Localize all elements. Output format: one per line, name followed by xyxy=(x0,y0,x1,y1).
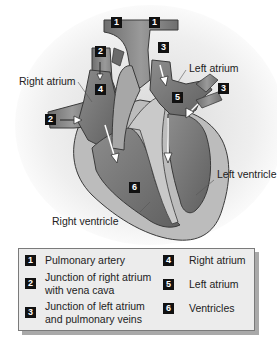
label-right-atrium: Right atrium xyxy=(19,76,76,87)
marker-6: 6 xyxy=(129,182,140,193)
legend-item-2: 2 Junction of right atrium with vena cav… xyxy=(25,271,151,296)
marker-3-right: 3 xyxy=(218,83,229,94)
marker-5: 5 xyxy=(172,92,183,103)
heart-diagram: 1 1 2 2 3 3 4 5 6 Right atrium Left atri… xyxy=(0,0,277,337)
legend-text: Pulmonary artery xyxy=(45,254,125,267)
legend-badge: 2 xyxy=(25,278,36,289)
legend-text: Junction of right atrium with vena cava xyxy=(45,271,151,296)
legend-box: 1 Pulmonary artery 2 Junction of right a… xyxy=(18,248,255,331)
marker-1-right: 1 xyxy=(149,17,160,28)
legend-badge: 1 xyxy=(25,255,36,266)
legend-item-3: 3 Junction of left atrium and pulmonary … xyxy=(25,300,145,325)
legend-item-5: 5 Left atrium xyxy=(163,278,239,291)
marker-2-top: 2 xyxy=(95,46,106,57)
marker-3-top: 3 xyxy=(158,42,169,53)
label-left-atrium: Left atrium xyxy=(189,63,239,74)
legend-item-6: 6 Ventricles xyxy=(163,302,235,315)
label-right-ventricle: Right ventricle xyxy=(52,216,119,227)
legend-item-1: 1 Pulmonary artery xyxy=(25,254,125,267)
legend-text: Junction of left atrium and pulmonary ve… xyxy=(45,300,145,325)
legend-text: Left atrium xyxy=(189,278,239,291)
legend-item-4: 4 Right atrium xyxy=(163,254,246,267)
legend-badge: 4 xyxy=(163,255,174,266)
legend-text: Right atrium xyxy=(189,254,246,267)
legend-badge: 5 xyxy=(163,279,174,290)
marker-2-left: 2 xyxy=(45,114,56,125)
heart-illustration xyxy=(0,0,277,245)
legend-badge: 6 xyxy=(163,303,174,314)
marker-1-left: 1 xyxy=(111,17,122,28)
marker-4: 4 xyxy=(95,84,106,95)
legend-badge: 3 xyxy=(25,307,36,318)
legend-text: Ventricles xyxy=(189,302,235,315)
label-left-ventricle: Left ventricle xyxy=(217,169,277,180)
